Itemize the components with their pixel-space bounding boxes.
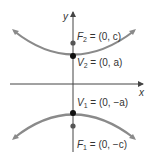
f2-label: F2 = (0, c) <box>77 32 121 45</box>
focus-f2-point <box>70 40 75 45</box>
f1-label: F1 = (0, −c) <box>77 140 127 153</box>
vertex-v2-point <box>70 53 76 59</box>
hyperbola-diagram: y x F2 = (0, c) V2 = (0, a) V1 = (0, −a)… <box>0 0 149 154</box>
v1-label: V1 = (0, −a) <box>77 98 128 111</box>
diagram-canvas <box>0 0 149 154</box>
x-axis-label: x <box>139 88 144 98</box>
v2-label: V2 = (0, a) <box>77 58 122 71</box>
y-axis-label: y <box>63 12 68 22</box>
focus-f1-point <box>70 123 75 128</box>
vertex-v1-point <box>70 110 76 116</box>
